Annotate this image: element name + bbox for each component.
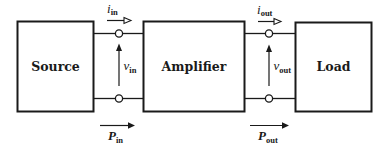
amplifier-block: Amplifier — [144, 22, 245, 112]
open-arrowhead-icon — [124, 18, 131, 24]
load-block: Load — [296, 23, 372, 112]
output-current-label: iout — [257, 2, 273, 19]
output-voltage-arrow — [266, 45, 272, 87]
input-power-arrow — [100, 122, 135, 128]
input-bottom-terminal — [115, 95, 122, 102]
input-top-terminal — [115, 30, 122, 37]
output-bottom-terminal — [265, 95, 272, 102]
load-label: Load — [317, 59, 351, 74]
input-voltage-arrow — [116, 44, 122, 87]
input-port: iin vin Pin — [94, 1, 143, 145]
input-current-label: iin — [107, 1, 118, 18]
open-arrowhead-icon — [274, 19, 281, 25]
arrowhead-right-icon — [282, 122, 289, 128]
output-port: iout vout Pout — [245, 2, 295, 145]
arrowhead-up-icon — [116, 44, 122, 52]
output-top-terminal — [265, 30, 272, 37]
output-voltage-label: vout — [274, 58, 292, 75]
arrowhead-up-icon — [266, 45, 272, 53]
amplifier-label: Amplifier — [161, 59, 227, 74]
source-label: Source — [31, 59, 80, 74]
input-current-arrow — [107, 18, 131, 24]
source-block: Source — [18, 22, 94, 112]
input-power-label: Pin — [108, 128, 123, 145]
input-voltage-label: vin — [124, 58, 137, 75]
amplifier-diagram: Source Amplifier Load iin — [0, 0, 388, 145]
output-current-arrow — [258, 19, 281, 25]
output-power-label: Pout — [258, 128, 278, 145]
output-power-arrow — [250, 122, 289, 128]
arrowhead-right-icon — [128, 122, 135, 128]
